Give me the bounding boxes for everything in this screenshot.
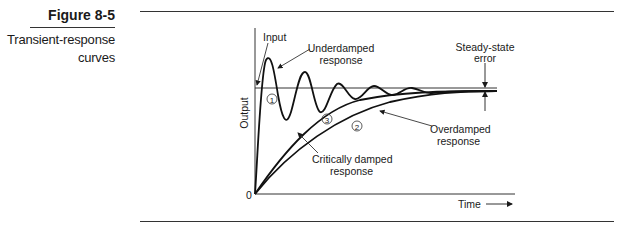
marker-3: 3 — [322, 114, 332, 125]
critical-leader — [298, 133, 318, 153]
svg-text:1: 1 — [270, 96, 275, 105]
transient-response-chart: 1 3 2 Input Underdamped response Steady-… — [0, 0, 634, 225]
underdamped-label-2: response — [319, 54, 362, 66]
input-label: Input — [263, 31, 286, 43]
underdamped-leader — [278, 49, 310, 68]
svg-text:3: 3 — [325, 116, 330, 125]
critical-label-2: response — [330, 165, 373, 177]
underdamped-label-1: Underdamped — [308, 42, 375, 54]
svg-text:2: 2 — [355, 123, 360, 132]
output-axis-label: Output — [238, 97, 250, 129]
origin-label: 0 — [246, 189, 252, 201]
time-axis-label: Time — [458, 198, 481, 210]
critical-label-1: Critically damped — [312, 153, 393, 165]
marker-2: 2 — [352, 121, 362, 132]
steady-state-label-2: error — [474, 52, 497, 64]
overdamped-label-2: response — [437, 135, 480, 147]
overdamped-leader — [380, 111, 432, 126]
overdamped-label-1: Overdamped — [430, 123, 491, 135]
marker-1: 1 — [267, 94, 277, 105]
